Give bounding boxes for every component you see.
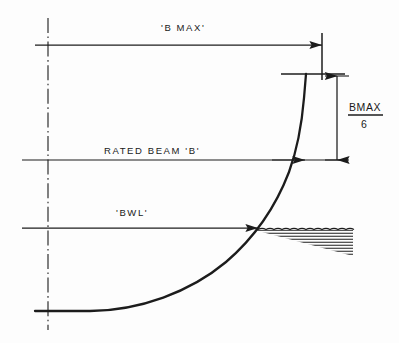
technical-drawing-canvas: 'B MAX' RATED BEAM 'B' 'BWL' xyxy=(0,0,399,343)
b-max-label: 'B MAX' xyxy=(161,22,205,33)
bmax-fraction-denominator: 6 xyxy=(361,118,367,130)
rated-beam-label: RATED BEAM 'B' xyxy=(104,145,200,156)
hull-section-curve xyxy=(35,74,306,311)
hull-section-drawing: 'B MAX' RATED BEAM 'B' 'BWL' xyxy=(0,0,399,343)
bwl-label: 'BWL' xyxy=(116,207,148,218)
bmax-fraction-numerator: BMAX xyxy=(349,101,381,113)
water-surface-wave xyxy=(258,228,354,229)
waterline-hatch xyxy=(250,230,356,254)
